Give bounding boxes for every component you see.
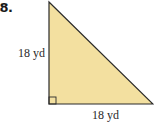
horizontal-leg-label: 18 yd	[92, 108, 119, 123]
triangle-shape	[49, 2, 153, 104]
right-triangle-figure	[0, 0, 154, 123]
vertical-leg-label: 18 yd	[18, 46, 45, 61]
